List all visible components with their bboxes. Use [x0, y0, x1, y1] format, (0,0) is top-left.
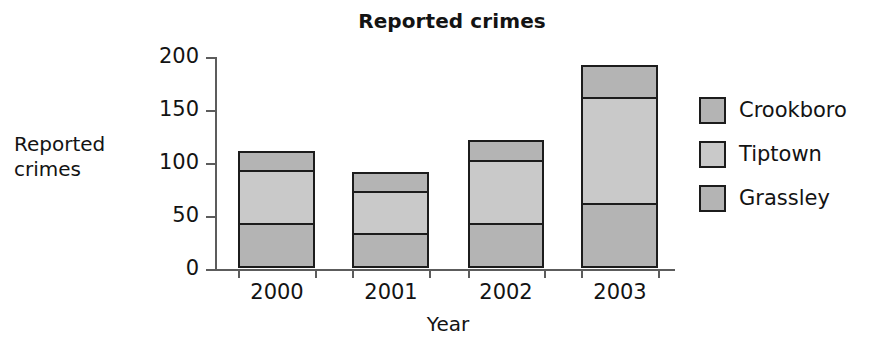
bar-segment-grassley-2002[interactable] — [468, 223, 544, 268]
bar-segment-grassley-2003[interactable] — [581, 203, 658, 268]
bar-segment-grassley-2000[interactable] — [238, 223, 315, 268]
y-tick-150: 150 — [206, 110, 215, 112]
x-tick-4 — [468, 269, 470, 278]
bar-segment-crookboro-2003[interactable] — [581, 65, 658, 99]
legend-item-tiptown[interactable]: Tiptown — [699, 132, 847, 176]
bar-segment-crookboro-2001[interactable] — [352, 172, 429, 193]
y-tick-50: 50 — [206, 216, 215, 218]
bar-segment-tiptown-2001[interactable] — [352, 191, 429, 235]
y-tick-label-50: 50 — [127, 203, 199, 227]
bar-group-2003[interactable]: 2003 — [581, 56, 658, 270]
x-label-2003: 2003 — [560, 280, 680, 304]
bar-segment-crookboro-2002[interactable] — [468, 140, 544, 162]
y-tick-label-0: 0 — [127, 256, 199, 280]
y-tick-label-100: 100 — [127, 150, 199, 174]
bar-segment-grassley-2001[interactable] — [352, 233, 429, 268]
bar-group-2002[interactable]: 2002 — [468, 56, 544, 270]
y-tick-200: 200 — [206, 57, 215, 59]
legend-item-crookboro[interactable]: Crookboro — [699, 88, 847, 132]
stacked-bar-2003 — [581, 65, 658, 268]
bar-segment-crookboro-2000[interactable] — [238, 151, 315, 172]
bar-segment-tiptown-2000[interactable] — [238, 170, 315, 225]
legend-label-grassley: Grassley — [739, 186, 830, 210]
chart-title: Reported crimes — [232, 9, 672, 33]
bar-group-2001[interactable]: 2001 — [352, 56, 429, 270]
legend-swatch-crookboro-icon — [699, 97, 726, 124]
y-tick-0: 0 — [206, 269, 215, 271]
x-tick-3 — [429, 269, 431, 278]
stacked-bar-2002 — [468, 140, 544, 268]
x-tick-1 — [315, 269, 317, 278]
legend-label-crookboro: Crookboro — [739, 98, 847, 122]
bar-segment-tiptown-2002[interactable] — [468, 160, 544, 225]
y-tick-100: 100 — [206, 163, 215, 165]
x-tick-2 — [352, 269, 354, 278]
legend-swatch-tiptown-icon — [699, 141, 726, 168]
x-label-2001: 2001 — [331, 280, 451, 304]
stacked-bar-2001 — [352, 172, 429, 268]
bar-group-2000[interactable]: 2000 — [238, 56, 315, 270]
bar-segment-tiptown-2003[interactable] — [581, 97, 658, 205]
x-tick-5 — [544, 269, 546, 278]
y-axis-title: Reported crimes — [14, 132, 136, 182]
legend-item-grassley[interactable]: Grassley — [699, 176, 847, 220]
chart-legend: Crookboro Tiptown Grassley — [699, 88, 847, 220]
x-tick-6 — [581, 269, 583, 278]
bar-chart: Reported crimes Reported crimes 200 150 … — [0, 0, 889, 354]
x-tick-0 — [238, 269, 240, 278]
x-axis-title: Year — [238, 312, 658, 336]
x-label-2000: 2000 — [217, 280, 337, 304]
plot-area: 200 150 100 50 0 2000 — [215, 57, 675, 270]
x-tick-7 — [658, 269, 660, 278]
y-axis-line — [215, 57, 217, 271]
stacked-bar-2000 — [238, 151, 315, 268]
x-label-2002: 2002 — [446, 280, 566, 304]
legend-swatch-grassley-icon — [699, 185, 726, 212]
y-tick-label-200: 200 — [127, 44, 199, 68]
legend-label-tiptown: Tiptown — [739, 142, 822, 166]
y-tick-label-150: 150 — [127, 97, 199, 121]
